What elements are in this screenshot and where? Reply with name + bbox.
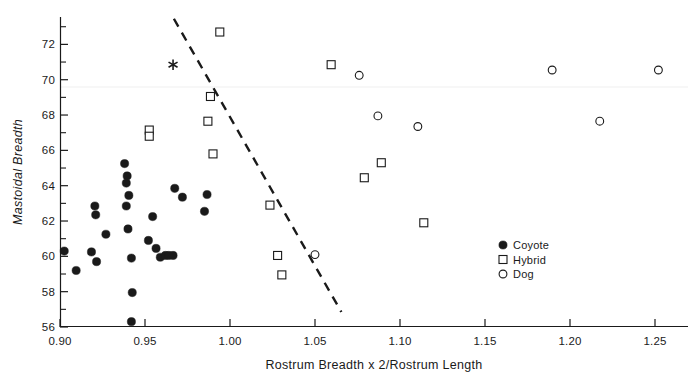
data-point-coyote — [124, 225, 132, 233]
plot-canvas: 565860626466687072 0.900.951.001.051.101… — [0, 0, 691, 385]
data-series — [60, 28, 662, 326]
y-tick-label: 72 — [42, 38, 55, 50]
series-dog — [311, 66, 662, 258]
data-point-coyote — [125, 191, 133, 199]
data-point-coyote — [144, 236, 152, 244]
data-point-dog — [355, 71, 363, 79]
x-tick-label: 1.20 — [558, 335, 581, 347]
x-axis-title: Rostrum Breadth x 2/Rostrum Length — [265, 358, 482, 372]
x-axis-tick-labels: 0.900.951.001.051.101.151.201.25 — [48, 335, 666, 347]
data-point-coyote — [121, 160, 129, 168]
legend: CoyoteHybridDog — [499, 239, 549, 280]
data-point-hybrid — [327, 61, 335, 69]
data-point-coyote — [122, 179, 130, 187]
data-point-dog — [548, 66, 556, 74]
legend-marker-dog — [499, 270, 507, 278]
plot-annotations — [169, 19, 342, 312]
x-tick-label: 1.15 — [473, 335, 496, 347]
data-point-dog — [655, 66, 663, 74]
data-point-coyote — [200, 207, 208, 215]
data-point-coyote — [171, 184, 179, 192]
data-point-coyote — [178, 193, 186, 201]
discriminant-dashed-line — [174, 19, 341, 312]
y-tick-label: 68 — [42, 109, 55, 121]
data-point-coyote — [92, 211, 100, 219]
data-point-coyote — [102, 230, 110, 238]
data-point-hybrid — [145, 132, 153, 140]
data-point-coyote — [149, 213, 157, 221]
data-point-coyote — [122, 202, 130, 210]
y-tick-label: 56 — [42, 321, 55, 333]
data-point-coyote — [92, 258, 100, 266]
data-point-dog — [414, 123, 422, 131]
asterisk-marker — [169, 59, 178, 69]
legend-label-dog: Dog — [513, 268, 534, 280]
data-point-coyote — [203, 190, 211, 198]
y-tick-label: 62 — [42, 215, 55, 227]
y-tick-label: 70 — [42, 74, 55, 86]
y-tick-label: 60 — [42, 250, 55, 262]
data-point-hybrid — [377, 159, 385, 167]
data-point-hybrid — [216, 28, 224, 36]
y-tick-label: 58 — [42, 286, 55, 298]
data-point-hybrid — [420, 219, 428, 227]
x-tick-label: 1.05 — [303, 335, 326, 347]
data-point-coyote — [169, 251, 177, 259]
data-point-coyote — [60, 247, 68, 255]
series-coyote — [60, 160, 211, 326]
data-point-coyote — [127, 318, 135, 326]
x-tick-label: 1.10 — [388, 335, 411, 347]
legend-label-hybrid: Hybrid — [513, 254, 546, 266]
series-hybrid — [145, 28, 428, 279]
y-axis-ticks — [60, 27, 68, 327]
data-point-hybrid — [206, 92, 214, 100]
y-axis-title: Mastoidal Breadth — [11, 119, 25, 225]
data-point-dog — [596, 117, 604, 125]
legend-marker-hybrid — [499, 256, 507, 264]
data-point-coyote — [91, 202, 99, 210]
data-point-coyote — [152, 244, 160, 252]
data-point-hybrid — [266, 201, 274, 209]
data-point-dog — [374, 112, 382, 120]
x-tick-label: 1.25 — [643, 335, 666, 347]
data-point-hybrid — [278, 271, 286, 279]
y-tick-label: 66 — [42, 144, 55, 156]
x-tick-label: 0.95 — [133, 335, 156, 347]
x-axis-ticks — [60, 319, 655, 327]
axes — [60, 17, 688, 327]
x-tick-label: 1.00 — [218, 335, 241, 347]
data-point-hybrid — [274, 251, 282, 259]
y-tick-label: 64 — [42, 180, 56, 192]
data-point-hybrid — [209, 150, 217, 158]
y-axis-tick-labels: 565860626466687072 — [42, 38, 56, 333]
legend-label-coyote: Coyote — [513, 239, 549, 251]
data-point-coyote — [128, 288, 136, 296]
data-point-hybrid — [204, 117, 212, 125]
data-point-hybrid — [360, 174, 368, 182]
data-point-coyote — [72, 266, 80, 274]
data-point-coyote — [127, 254, 135, 262]
data-point-dog — [311, 251, 319, 259]
x-tick-label: 0.90 — [48, 335, 71, 347]
legend-marker-coyote — [499, 241, 507, 249]
data-point-coyote — [87, 248, 95, 256]
scatter-plot-figure: 565860626466687072 0.900.951.001.051.101… — [0, 0, 691, 385]
